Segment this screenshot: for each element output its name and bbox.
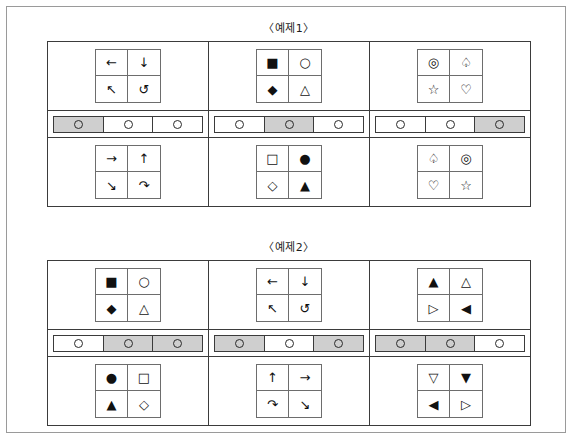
slider-cell-2[interactable] bbox=[426, 117, 476, 132]
triangle-up-outline-icon: △ bbox=[450, 269, 482, 295]
circle-filled-icon: ● bbox=[96, 365, 128, 391]
rotate-clockwise-icon: ↷ bbox=[257, 391, 289, 417]
slider-cell-2[interactable] bbox=[426, 336, 476, 351]
slider-cell-3[interactable] bbox=[475, 336, 524, 351]
example-1-col-2-top: ■ ○ ◆ △ bbox=[209, 42, 370, 110]
example-2-slider-row bbox=[48, 329, 530, 357]
slider-cell-3[interactable] bbox=[314, 117, 363, 132]
example-2-col-3-slider bbox=[370, 330, 530, 356]
diamond-outline-icon: ◇ bbox=[128, 391, 160, 417]
circle-outline-icon bbox=[173, 339, 182, 348]
example-1-col-3-slider bbox=[370, 111, 530, 137]
slider-cell-2[interactable] bbox=[104, 117, 154, 132]
slider-cell-3[interactable] bbox=[475, 117, 524, 132]
circle-outline-icon: ○ bbox=[289, 50, 321, 76]
slider-cell-1[interactable] bbox=[54, 117, 104, 132]
circle-outline-icon bbox=[495, 339, 504, 348]
matrix-e1-c2-bottom: □ ● ◇ ▲ bbox=[256, 145, 322, 199]
triangle-up-outline-icon: △ bbox=[128, 295, 160, 321]
slider-cell-1[interactable] bbox=[215, 336, 265, 351]
arrow-up-left-icon: ↖ bbox=[257, 295, 289, 321]
matrix-e1-c3-bottom: ♤ ◎ ♡ ☆ bbox=[417, 145, 483, 199]
example-2-col-1-top: ■ ○ ◆ △ bbox=[48, 261, 209, 329]
slider-cell-3[interactable] bbox=[153, 117, 202, 132]
square-filled-icon: ■ bbox=[96, 269, 128, 295]
double-circle-icon: ◎ bbox=[450, 146, 482, 172]
matrix-e2-c2-bottom: ↑ → ↷ ↘ bbox=[256, 364, 322, 418]
matrix-e1-c1-bottom: → ↑ ↘ ↷ bbox=[95, 145, 161, 199]
slider-cell-2[interactable] bbox=[265, 117, 315, 132]
heart-outline-icon: ♡ bbox=[450, 76, 482, 102]
arrow-right-icon: → bbox=[96, 146, 128, 172]
square-outline-icon: □ bbox=[128, 365, 160, 391]
matrix-e2-c3-top: ▲ △ ▷ ◀ bbox=[417, 268, 483, 322]
circle-outline-icon bbox=[396, 120, 405, 129]
matrix-e1-c1-top: ← ↓ ↖ ↺ bbox=[95, 49, 161, 103]
circle-filled-icon: ● bbox=[289, 146, 321, 172]
slider-cell-1[interactable] bbox=[215, 117, 265, 132]
slider-cell-1[interactable] bbox=[54, 336, 104, 351]
example-1-col-3-top: ◎ ♤ ☆ ♡ bbox=[370, 42, 530, 110]
slider-e1-c3[interactable] bbox=[375, 116, 525, 133]
slider-e2-c3[interactable] bbox=[375, 335, 525, 352]
triangle-up-outline-icon: △ bbox=[289, 76, 321, 102]
triangle-left-filled-icon: ◀ bbox=[450, 295, 482, 321]
circle-outline-icon bbox=[446, 339, 455, 348]
heart-outline-icon: ♡ bbox=[418, 172, 450, 198]
matrix-e2-c1-top: ■ ○ ◆ △ bbox=[95, 268, 161, 322]
example-1-bottom-row: → ↑ ↘ ↷ □ ● ◇ ▲ ♤ bbox=[48, 138, 530, 206]
arrow-up-icon: ↑ bbox=[257, 365, 289, 391]
example-2-bottom-row: ● □ ▲ ◇ ↑ → ↷ ↘ ▽ bbox=[48, 357, 530, 425]
square-filled-icon: ■ bbox=[257, 50, 289, 76]
example-block-2: 〈예제2〉 ■ ○ ◆ △ ← ↓ ↖ ↺ bbox=[47, 240, 531, 426]
slider-cell-3[interactable] bbox=[314, 336, 363, 351]
circle-outline-icon bbox=[334, 339, 343, 348]
matrix-e1-c3-top: ◎ ♤ ☆ ♡ bbox=[417, 49, 483, 103]
triangle-right-outline-icon: ▷ bbox=[418, 295, 450, 321]
circle-outline-icon bbox=[235, 339, 244, 348]
diamond-outline-icon: ◇ bbox=[257, 172, 289, 198]
example-2-col-2-bottom: ↑ → ↷ ↘ bbox=[209, 357, 370, 425]
example-1-col-2-bottom: □ ● ◇ ▲ bbox=[209, 138, 370, 206]
slider-cell-2[interactable] bbox=[104, 336, 154, 351]
example-1-col-1-bottom: → ↑ ↘ ↷ bbox=[48, 138, 209, 206]
slider-cell-3[interactable] bbox=[153, 336, 202, 351]
circle-outline-icon bbox=[334, 120, 343, 129]
example-1-title: 〈예제1〉 bbox=[47, 21, 531, 37]
example-2-col-2-slider bbox=[209, 330, 370, 356]
double-circle-icon: ◎ bbox=[418, 50, 450, 76]
arrow-up-icon: ↑ bbox=[128, 146, 160, 172]
triangle-up-filled-icon: ▲ bbox=[96, 391, 128, 417]
example-1-col-1-slider bbox=[48, 111, 209, 137]
example-2-col-1-slider bbox=[48, 330, 209, 356]
spade-outline-icon: ♤ bbox=[418, 146, 450, 172]
example-2-col-1-bottom: ● □ ▲ ◇ bbox=[48, 357, 209, 425]
circle-outline-icon bbox=[285, 120, 294, 129]
square-outline-icon: □ bbox=[257, 146, 289, 172]
slider-cell-1[interactable] bbox=[376, 117, 426, 132]
slider-e1-c2[interactable] bbox=[214, 116, 364, 133]
slider-e2-c1[interactable] bbox=[53, 335, 203, 352]
example-1-col-1-top: ← ↓ ↖ ↺ bbox=[48, 42, 209, 110]
slider-e2-c2[interactable] bbox=[214, 335, 364, 352]
example-2-grid: ■ ○ ◆ △ ← ↓ ↖ ↺ ▲ bbox=[47, 260, 531, 426]
slider-cell-2[interactable] bbox=[265, 336, 315, 351]
circle-outline-icon bbox=[173, 120, 182, 129]
example-1-top-row: ← ↓ ↖ ↺ ■ ○ ◆ △ ◎ bbox=[48, 42, 530, 110]
example-2-title: 〈예제2〉 bbox=[47, 240, 531, 256]
matrix-e2-c1-bottom: ● □ ▲ ◇ bbox=[95, 364, 161, 418]
arrow-left-icon: ← bbox=[96, 50, 128, 76]
matrix-e2-c3-bottom: ▽ ▼ ◀ ▷ bbox=[417, 364, 483, 418]
slider-e1-c1[interactable] bbox=[53, 116, 203, 133]
matrix-e2-c2-top: ← ↓ ↖ ↺ bbox=[256, 268, 322, 322]
rotate-counterclockwise-icon: ↺ bbox=[289, 295, 321, 321]
diamond-filled-icon: ◆ bbox=[96, 295, 128, 321]
example-1-grid: ← ↓ ↖ ↺ ■ ○ ◆ △ ◎ bbox=[47, 41, 531, 207]
arrow-down-icon: ↓ bbox=[128, 50, 160, 76]
arrow-left-icon: ← bbox=[257, 269, 289, 295]
triangle-down-outline-icon: ▽ bbox=[418, 365, 450, 391]
spade-outline-icon: ♤ bbox=[450, 50, 482, 76]
slider-cell-1[interactable] bbox=[376, 336, 426, 351]
matrix-e1-c2-top: ■ ○ ◆ △ bbox=[256, 49, 322, 103]
circle-outline-icon bbox=[74, 339, 83, 348]
